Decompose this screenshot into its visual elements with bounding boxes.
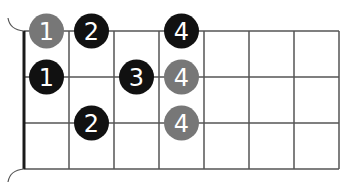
finger-number: 2	[84, 110, 99, 138]
finger-number: 1	[39, 18, 54, 46]
finger-number: 4	[174, 110, 189, 138]
finger-dot: 4	[164, 106, 199, 141]
fretboard-diagram: 12413424	[0, 0, 350, 183]
finger-dot: 2	[74, 106, 109, 141]
finger-dot: 3	[119, 60, 154, 95]
top-bracket-curve	[8, 18, 24, 31]
finger-number: 2	[84, 18, 99, 46]
finger-number: 3	[129, 64, 144, 92]
finger-dot: 4	[164, 60, 199, 95]
finger-number: 4	[174, 18, 189, 46]
bottom-bracket-curve	[8, 169, 24, 182]
finger-number: 1	[39, 64, 54, 92]
finger-dot: 1	[29, 14, 64, 49]
finger-dot: 4	[164, 14, 199, 49]
finger-dot: 2	[74, 14, 109, 49]
finger-dot: 1	[29, 60, 64, 95]
finger-number: 4	[174, 64, 189, 92]
fretboard-grid	[24, 31, 339, 169]
